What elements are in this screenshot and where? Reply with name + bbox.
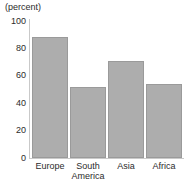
bar-chart-figure: (percent) 020406080100 EuropeSouthAmeric… — [0, 0, 189, 188]
x-tick-label-line: South — [76, 161, 100, 171]
x-tick-label-line: Europe — [35, 161, 64, 171]
x-tick-label-line: Asia — [117, 161, 135, 171]
bar — [70, 87, 106, 158]
y-tick-label: 40 — [2, 99, 26, 108]
y-tick-label: 20 — [2, 126, 26, 135]
bar — [146, 84, 182, 158]
y-axis-unit-label: (percent) — [5, 2, 41, 13]
bar — [32, 37, 68, 158]
x-tick-label-line: Africa — [152, 161, 175, 171]
y-tick-label: 80 — [2, 44, 26, 53]
x-axis-line — [29, 158, 184, 159]
y-tick-label: 60 — [2, 71, 26, 80]
x-tick-label-line: America — [62, 171, 114, 181]
y-tick-label: 0 — [2, 154, 26, 163]
plot-area — [30, 21, 184, 158]
bar — [108, 61, 144, 158]
x-tick-label: Africa — [138, 161, 189, 171]
y-tick-label: 100 — [2, 17, 26, 26]
